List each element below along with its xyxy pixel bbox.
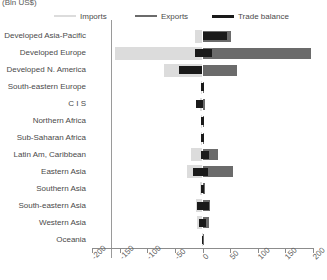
bar-trade-balance <box>202 236 203 244</box>
category-label: South-eastern Asia <box>18 201 86 211</box>
category-label: Developed Asia-Pacific <box>4 31 86 41</box>
bar-trade-balance <box>201 151 209 159</box>
chart-legend: Imports Exports Trade balance <box>0 9 321 23</box>
category-label: Northern Africa <box>33 116 86 126</box>
bar-row <box>92 97 313 112</box>
category-label: C I S <box>68 99 86 109</box>
bar-trade-balance <box>197 202 209 210</box>
bar-row <box>92 29 313 44</box>
bar-trade-balance <box>199 219 206 227</box>
legend-label-imports: Imports <box>80 12 107 21</box>
bar-row <box>92 181 313 196</box>
category-label: Oceania <box>56 235 86 245</box>
category-label: Eastern Asia <box>41 167 86 177</box>
bar-trade-balance <box>201 134 203 142</box>
bar-row <box>92 46 313 61</box>
line-swatch-icon <box>54 15 76 17</box>
legend-label-trade-balance: Trade balance <box>238 12 289 21</box>
bar-row <box>92 164 313 179</box>
bar-imports <box>195 30 203 43</box>
category-label: Developed N. America <box>6 65 86 75</box>
category-label: Western Asia <box>39 218 86 228</box>
bar-exports <box>203 65 237 76</box>
legend-item-exports: Exports <box>135 9 188 23</box>
category-label: Sub-Saharan Africa <box>17 133 86 143</box>
bar-row <box>92 198 313 213</box>
line-swatch-icon <box>212 15 234 18</box>
units-label: (Bln US$) <box>2 0 37 7</box>
bar-trade-balance <box>179 66 202 74</box>
x-tick-label: 0 <box>201 252 211 262</box>
zero-line <box>111 20 112 258</box>
bar-trade-balance <box>201 117 203 125</box>
bar-row <box>92 147 313 162</box>
bar-trade-balance <box>203 32 227 40</box>
bar-row <box>92 232 313 247</box>
bar-trade-balance <box>195 49 213 57</box>
bar-trade-balance <box>196 100 203 108</box>
bar-trade-balance <box>193 168 208 176</box>
bar-row <box>92 63 313 78</box>
legend-label-exports: Exports <box>161 12 188 21</box>
bar-imports <box>115 47 202 60</box>
bar-row <box>92 80 313 95</box>
line-swatch-icon <box>135 15 157 17</box>
category-label: Southern Asia <box>36 184 86 194</box>
category-label: Developed Europe <box>20 48 86 58</box>
bar-row <box>92 215 313 230</box>
category-axis-labels: Developed Asia-PacificDeveloped EuropeDe… <box>0 28 89 248</box>
bar-row <box>92 114 313 129</box>
bar-trade-balance <box>201 83 203 91</box>
category-label: South-eastern Europe <box>8 82 86 92</box>
bar-exports <box>203 48 311 59</box>
bar-row <box>92 131 313 146</box>
category-label: Latin Am, Caribbean <box>14 150 87 160</box>
plot-area <box>92 28 313 248</box>
legend-item-trade-balance: Trade balance <box>212 9 289 23</box>
bar-trade-balance <box>201 185 204 193</box>
legend-item-imports: Imports <box>54 9 107 23</box>
